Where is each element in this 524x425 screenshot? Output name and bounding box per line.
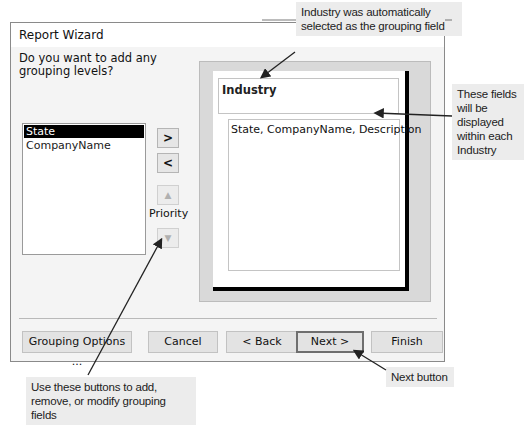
remove-grouping-button[interactable]: <	[157, 153, 179, 173]
list-item-state[interactable]: State	[24, 125, 144, 138]
group-field-label: Industry	[222, 83, 276, 97]
available-fields-listbox[interactable]: State CompanyName	[22, 123, 146, 255]
dialog-title: Report Wizard	[19, 28, 104, 42]
arrow-up-icon: ▲	[165, 190, 172, 200]
footer-separator	[19, 318, 437, 319]
list-item-companyname[interactable]: CompanyName	[24, 139, 144, 152]
callout-industry: Industry was automatically selected as t…	[296, 2, 462, 36]
preview-page: Industry State, CompanyName, Description	[213, 71, 409, 291]
priority-down-button[interactable]: ▼	[157, 228, 179, 248]
back-button[interactable]: < Back	[226, 331, 298, 353]
callout-fields: These fields will be displayed within ea…	[452, 84, 524, 160]
next-button[interactable]: Next >	[296, 331, 364, 353]
priority-up-button[interactable]: ▲	[157, 185, 179, 205]
report-wizard-dialog: Report Wizard Do you want to add any gro…	[10, 22, 445, 362]
arrow-down-icon: ▼	[165, 233, 172, 243]
callout-next-button: Next button	[386, 367, 454, 387]
detail-fields-box: State, CompanyName, Description	[228, 119, 400, 271]
detail-fields-label: State, CompanyName, Description	[231, 123, 422, 136]
group-header-box: Industry	[218, 78, 399, 114]
grouping-options-button[interactable]: Grouping Options ...	[22, 331, 132, 353]
callout-grouping-buttons: Use these buttons to add, remove, or mod…	[26, 377, 196, 425]
cancel-button[interactable]: Cancel	[148, 331, 218, 353]
finish-button[interactable]: Finish	[371, 331, 443, 353]
priority-label: Priority	[149, 207, 188, 220]
grouping-question: Do you want to add any grouping levels?	[19, 52, 199, 78]
add-grouping-button[interactable]: >	[157, 128, 179, 148]
grouping-preview: Industry State, CompanyName, Description	[199, 61, 431, 302]
